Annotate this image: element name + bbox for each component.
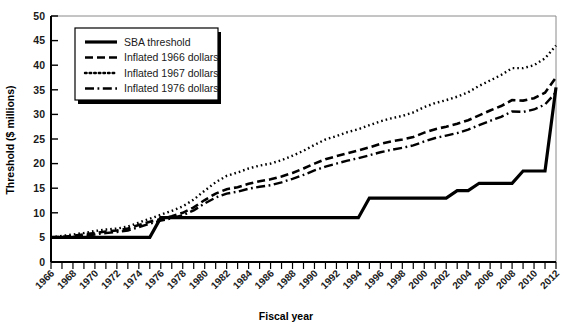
y-tick-label: 50 [33, 10, 45, 22]
y-axis-title: Threshold ($ millions) [4, 85, 16, 194]
y-tick-label: 15 [33, 182, 45, 194]
x-tick-label: 1980 [187, 267, 211, 291]
y-tick-label: 10 [33, 207, 45, 219]
x-tick-label: 1990 [296, 267, 320, 291]
x-tick-label: 2008 [494, 267, 518, 291]
legend-label-0: SBA threshold [124, 36, 191, 48]
x-tick-label: 1972 [99, 267, 123, 291]
x-tick-label: 1976 [143, 267, 167, 291]
x-tick-label: 2002 [428, 267, 452, 291]
x-tick-label: 1988 [274, 267, 298, 291]
y-tick-label: 0 [39, 256, 45, 268]
x-tick-label: 1998 [384, 267, 408, 291]
y-axis-tick-labels: 05101520253035404550 [33, 10, 45, 268]
x-tick-label: 2010 [516, 267, 540, 291]
x-axis-title: Fiscal year [259, 310, 313, 322]
x-tick-label: 2012 [538, 267, 562, 291]
y-tick-label: 35 [33, 84, 45, 96]
x-tick-label: 1966 [33, 267, 57, 291]
x-axis-tick-labels: 1966196819701972197419761978198019821984… [33, 267, 562, 291]
chart-svg: 05101520253035404550 1966196819701972197… [0, 0, 572, 327]
y-axis-ticks [51, 16, 58, 262]
x-tick-label: 1968 [55, 267, 79, 291]
x-tick-label: 1974 [121, 267, 145, 291]
x-tick-label: 1996 [362, 267, 386, 291]
y-tick-label: 30 [33, 108, 45, 120]
chart-legend: SBA thresholdInflated 1966 dollarsInflat… [75, 28, 221, 104]
x-tick-label: 1970 [77, 267, 101, 291]
legend-label-1: Inflated 1966 dollars [124, 51, 219, 63]
x-axis-ticks [51, 262, 556, 269]
x-tick-label: 2004 [450, 267, 474, 291]
x-tick-label: 1992 [318, 267, 342, 291]
x-tick-label: 1984 [231, 267, 255, 291]
y-tick-label: 5 [39, 231, 45, 243]
y-tick-label: 20 [33, 157, 45, 169]
chart-figure: 05101520253035404550 1966196819701972197… [0, 0, 572, 327]
x-tick-label: 1994 [340, 267, 364, 291]
y-tick-label: 25 [33, 133, 45, 145]
x-tick-label: 2000 [406, 267, 430, 291]
series-line-0 [51, 87, 556, 237]
y-tick-label: 40 [33, 59, 45, 71]
x-tick-label: 1978 [165, 267, 189, 291]
legend-label-3: Inflated 1976 dollars [124, 82, 219, 94]
legend-label-2: Inflated 1967 dollars [124, 67, 219, 79]
x-tick-label: 1986 [252, 267, 276, 291]
x-tick-label: 1982 [209, 267, 233, 291]
y-tick-label: 45 [33, 34, 45, 46]
x-tick-label: 2006 [472, 267, 496, 291]
